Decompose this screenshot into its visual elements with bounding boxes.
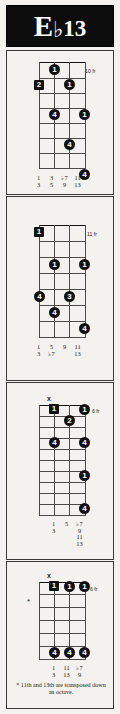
interval-labels-1: 1 3 3 5 ♭7 9 11 13	[32, 175, 84, 188]
fret-dot: 4	[79, 503, 90, 514]
interval-column: 11 13	[60, 665, 73, 678]
interval-column: 1 3	[32, 175, 45, 188]
fretboard-diagram-3: x 6 fr 1 1 2 4	[7, 383, 115, 559]
fret-dot: 4	[79, 647, 90, 658]
chord-accidental-flat-icon: ♭	[53, 18, 63, 40]
chord-root: E	[34, 12, 53, 41]
fret-dot: 1	[64, 79, 75, 90]
fret-dot: 1	[79, 581, 90, 592]
fret-dot: 1	[79, 259, 90, 270]
footnote-star-marker: *	[27, 599, 30, 605]
octave-transposition-footnote: * 11th and 13th are transposed down an o…	[15, 682, 107, 696]
fret-dot: 1	[34, 227, 44, 237]
fret-dot: 1	[49, 581, 59, 591]
interval-column: 1 3	[47, 665, 60, 678]
muted-string-marker-x: x	[47, 572, 51, 579]
fretboard-diagram-1: 10 fr 1 2 1 4 1 4 4	[7, 51, 115, 194]
muted-string-marker-x: x	[47, 395, 51, 402]
fret-position-label-1: 10 fr	[85, 68, 95, 74]
interval-column: 3 5	[45, 175, 58, 188]
fret-dot: 1	[49, 404, 59, 414]
chord-voicing-panel-1[interactable]: 10 fr 1 2 1 4 1 4 4	[6, 50, 114, 195]
fret-position-label-2: 11 fr	[87, 231, 97, 237]
interval-column: ♭7 9	[73, 665, 86, 678]
fret-dot: 4	[79, 437, 90, 448]
fretboard-diagram-2: 11 fr 1 1 1 4 3 4 4	[7, 197, 115, 380]
fret-dot: 4	[49, 647, 60, 658]
interval-column: ♭7 9	[58, 175, 71, 188]
chord-voicing-panel-3[interactable]: x 6 fr 1 1 2 4	[6, 382, 114, 560]
fret-dot: 2	[34, 80, 44, 90]
fret-dot: 1	[79, 470, 90, 481]
fret-dot: 4	[64, 139, 75, 150]
chord-title-bar: E♭13	[6, 5, 114, 47]
chord-extension: 13	[63, 17, 86, 40]
fret-dot: 4	[64, 647, 75, 658]
fret-dot: 2	[64, 415, 75, 426]
fretboard-diagram-4: x 6 fr * 1 1 1 4 4 4	[7, 562, 115, 708]
fret-dot: 4	[79, 169, 90, 180]
chord-chart-page: E♭13 10 fr 1 2 1 4	[0, 0, 120, 714]
interval-column: 9	[58, 344, 71, 357]
fret-dot: 4	[49, 437, 60, 448]
fret-dot: 4	[79, 323, 90, 334]
interval-column: 11 13	[71, 344, 84, 357]
interval-labels-3: 1 3 5 ♭7 9 11 13	[47, 521, 86, 547]
chord-voicing-panel-4[interactable]: x 6 fr * 1 1 1 4 4 4	[6, 561, 114, 709]
fret-dot: 4	[49, 109, 60, 120]
fret-dot: 4	[34, 291, 45, 302]
interval-labels-4: 1 3 11 13 ♭7 9	[47, 665, 86, 678]
chord-title: E♭13	[34, 12, 87, 41]
fret-dot: 1	[64, 581, 75, 592]
fret-dot: 1	[49, 259, 60, 270]
fret-dot: 3	[64, 291, 75, 302]
interval-column: 5 ♭7	[45, 344, 58, 357]
fret-dot: 1	[79, 404, 90, 415]
fret-dot: 1	[49, 64, 60, 75]
fret-position-label-3: 6 fr	[92, 408, 100, 414]
interval-column: 1 3	[47, 521, 60, 534]
interval-column: ♭7 9 11 13	[73, 521, 86, 547]
interval-column: 1 3	[32, 344, 45, 357]
interval-column: 5	[60, 521, 73, 528]
fret-position-label-4: 6 fr	[90, 586, 98, 592]
interval-labels-2: 1 3 5 ♭7 9 11 13	[32, 344, 84, 357]
fret-dot: 4	[49, 307, 60, 318]
fret-dot: 1	[79, 109, 90, 120]
chord-voicing-panel-2[interactable]: 11 fr 1 1 1 4 3 4 4	[6, 196, 114, 381]
